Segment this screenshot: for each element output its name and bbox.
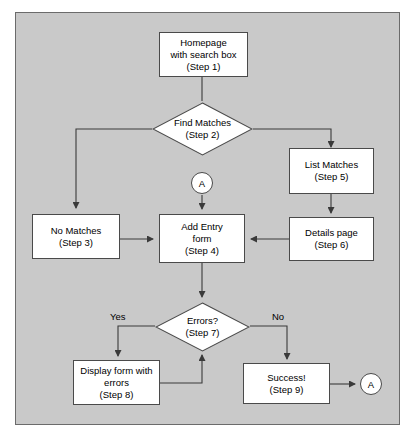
node-details-page-line2: (Step 6) <box>315 239 349 251</box>
node-success-line2: (Step 9) <box>270 384 304 396</box>
node-display-form-line1: Display form with <box>80 365 152 377</box>
connector-a-out-label: A <box>368 379 374 390</box>
node-list-matches-line1: List Matches <box>305 159 358 171</box>
node-no-matches-line1: No Matches <box>51 225 102 237</box>
edge-label-errors-no: No <box>272 311 284 322</box>
node-find-matches-label: Find Matches (Step 2) <box>174 117 231 141</box>
node-add-entry-line3: (Step 4) <box>185 245 219 257</box>
node-display-form-with-errors[interactable]: Display form with errors (Step 8) <box>73 360 160 405</box>
node-errors-line1: Errors? <box>186 315 220 327</box>
connector-a-out[interactable]: A <box>360 373 382 395</box>
node-errors-label: Errors? (Step 7) <box>186 315 220 339</box>
node-list-matches-line2: (Step 5) <box>315 171 349 183</box>
flowchart-canvas: Homepage with search box (Step 1) Find M… <box>0 0 417 437</box>
node-details-page-line1: Details page <box>305 227 358 239</box>
connector-a-in-label: A <box>199 178 205 189</box>
node-success[interactable]: Success! (Step 9) <box>243 363 330 404</box>
node-no-matches[interactable]: No Matches (Step 3) <box>32 214 120 259</box>
connector-a-in[interactable]: A <box>191 172 213 194</box>
node-find-matches-line1: Find Matches <box>174 117 231 129</box>
node-find-matches[interactable]: Find Matches (Step 2) <box>152 102 253 156</box>
node-add-entry-line2: form <box>193 233 212 245</box>
node-errors[interactable]: Errors? (Step 7) <box>155 302 250 352</box>
node-no-matches-line2: (Step 3) <box>59 237 93 249</box>
node-homepage-line1: Homepage <box>180 37 226 49</box>
node-add-entry-form[interactable]: Add Entry form (Step 4) <box>159 214 245 263</box>
node-display-form-line3: (Step 8) <box>100 389 134 401</box>
node-find-matches-line2: (Step 2) <box>174 129 231 141</box>
node-success-line1: Success! <box>267 372 306 384</box>
node-homepage-line3: (Step 1) <box>187 61 221 73</box>
edge-label-errors-yes: Yes <box>110 311 126 322</box>
node-homepage[interactable]: Homepage with search box (Step 1) <box>159 32 248 77</box>
node-errors-line2: (Step 7) <box>186 327 220 339</box>
node-display-form-line2: errors <box>104 377 129 389</box>
node-homepage-line2: with search box <box>170 49 236 61</box>
node-add-entry-line1: Add Entry <box>181 221 223 233</box>
node-list-matches[interactable]: List Matches (Step 5) <box>289 148 374 194</box>
node-details-page[interactable]: Details page (Step 6) <box>289 217 374 261</box>
